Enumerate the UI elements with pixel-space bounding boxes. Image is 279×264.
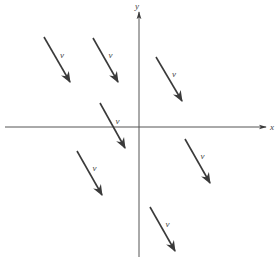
vector-label: v <box>116 116 120 126</box>
vector-label: v <box>60 50 64 60</box>
vector-label: v <box>172 69 176 79</box>
arrow-line <box>93 38 118 82</box>
vector-arrow: v <box>77 151 102 195</box>
vector-arrow: v <box>100 103 125 148</box>
x-axis-label: x <box>269 122 274 132</box>
vector-label: v <box>109 50 113 60</box>
vector-arrow: v <box>44 37 70 82</box>
vector-field-diagram: x y vvvvvvv <box>0 0 279 264</box>
arrow-line <box>100 103 125 148</box>
arrow-line <box>156 57 182 101</box>
vector-label: v <box>166 219 170 229</box>
vector-label: v <box>201 151 205 161</box>
vector-arrow: v <box>156 57 182 101</box>
vector-arrow: v <box>150 207 175 251</box>
arrow-line <box>185 139 210 183</box>
arrow-line <box>44 37 70 82</box>
vector-arrow: v <box>185 139 210 183</box>
y-axis-label: y <box>134 1 139 11</box>
vector-label: v <box>93 163 97 173</box>
arrow-line <box>150 207 175 251</box>
vector-arrow: v <box>93 38 118 82</box>
vector-group: vvvvvvv <box>44 37 210 251</box>
arrow-line <box>77 151 102 195</box>
